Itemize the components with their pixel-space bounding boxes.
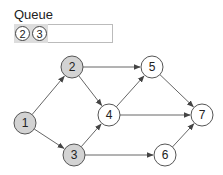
node-6: 6 bbox=[154, 144, 176, 166]
node-7: 7 bbox=[191, 104, 213, 126]
svg-text:5: 5 bbox=[149, 60, 156, 74]
graph-diagram: 1234567 bbox=[0, 0, 223, 175]
svg-text:6: 6 bbox=[162, 148, 169, 162]
node-4: 4 bbox=[98, 104, 120, 126]
edge-2-4 bbox=[79, 76, 102, 106]
svg-text:1: 1 bbox=[22, 116, 29, 130]
node-5: 5 bbox=[141, 56, 163, 78]
node-2: 2 bbox=[61, 56, 83, 78]
edge-6-7 bbox=[172, 124, 193, 147]
edge-3-4 bbox=[81, 124, 101, 147]
edge-4-5 bbox=[116, 76, 144, 107]
svg-text:3: 3 bbox=[71, 148, 78, 162]
node-3: 3 bbox=[63, 144, 85, 166]
svg-text:7: 7 bbox=[199, 108, 206, 122]
edge-1-3 bbox=[34, 129, 64, 148]
edge-1-2 bbox=[32, 76, 64, 114]
nodes: 1234567 bbox=[14, 56, 213, 166]
svg-text:4: 4 bbox=[106, 108, 113, 122]
edge-5-7 bbox=[160, 75, 193, 107]
node-1: 1 bbox=[14, 112, 36, 134]
svg-text:2: 2 bbox=[69, 60, 76, 74]
